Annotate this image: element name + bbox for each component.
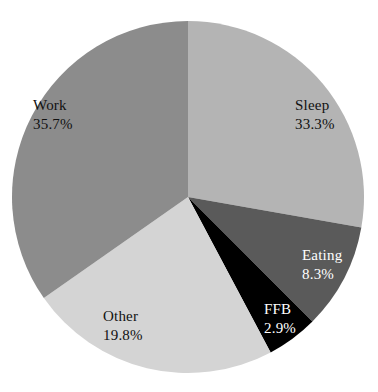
pie-chart — [0, 0, 378, 392]
label-sleep-name: Sleep — [295, 96, 335, 115]
pie-slices — [12, 21, 364, 373]
label-eating-pct: 8.3% — [302, 265, 342, 284]
label-work-pct: 35.7% — [33, 115, 73, 134]
label-work-name: Work — [33, 96, 73, 115]
label-other-name: Other — [103, 307, 143, 326]
label-other: Other 19.8% — [103, 307, 143, 345]
label-sleep-pct: 33.3% — [295, 115, 335, 134]
label-eating-name: Eating — [302, 246, 342, 265]
slice-sleep — [188, 21, 364, 228]
label-other-pct: 19.8% — [103, 326, 143, 345]
label-ffb-pct: 2.9% — [264, 319, 296, 338]
label-ffb: FFB 2.9% — [264, 300, 296, 338]
label-work: Work 35.7% — [33, 96, 73, 134]
label-ffb-name: FFB — [264, 300, 296, 319]
label-sleep: Sleep 33.3% — [295, 96, 335, 134]
label-eating: Eating 8.3% — [302, 246, 342, 284]
